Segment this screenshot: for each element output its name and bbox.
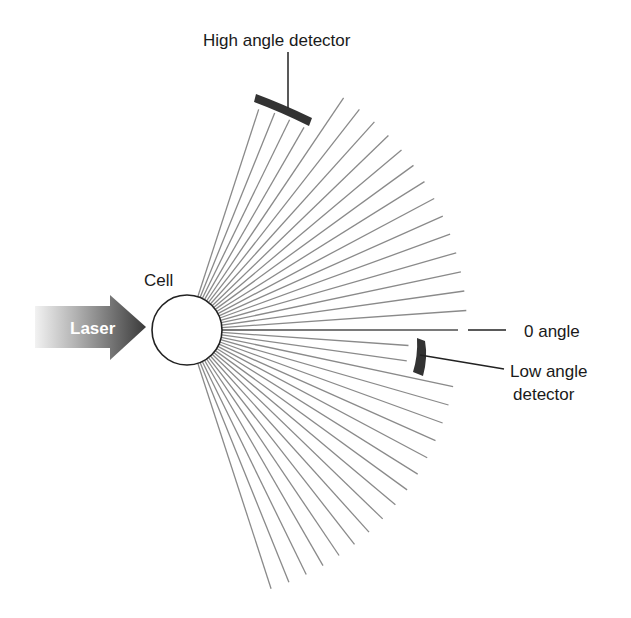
scatter-ray [209,109,360,302]
scattered-light-rays [198,98,467,589]
low-angle-detector-label-line1: Low angle [510,362,588,381]
cell-label: Cell [144,271,173,290]
zero-angle-label: 0 angle [524,322,580,341]
scatter-ray [200,113,275,298]
scatter-ray [205,360,324,565]
high-angle-detector: High angle detector [203,31,351,126]
scatter-ray [218,346,427,457]
scatter-ray [215,351,407,490]
low-angle-detector: Low angle detector [413,338,588,404]
scatter-ray [214,150,402,308]
scatter-ray [214,353,396,505]
scatter-ray [209,358,355,545]
scatter-ray [200,363,289,583]
scatter-ray [210,122,374,304]
scatter-ray [220,342,443,423]
laser-arrow: Laser [35,295,146,360]
scatter-ray [218,199,434,314]
light-scatter-diagram: Laser Cell High angle detector 0 angle L… [0,0,631,618]
scatter-ray [220,234,450,318]
scatter-ray [222,311,466,328]
cell-circle [152,295,222,365]
scatter-ray [210,356,369,532]
zero-angle-marker: 0 angle [468,322,580,341]
high-angle-detector-label: High angle detector [203,31,351,50]
low-angle-detector-label-line2: detector [513,385,575,404]
low-angle-detector-leader [420,355,504,369]
scatter-ray [202,362,306,575]
scatter-ray [222,291,465,325]
laser-label: Laser [70,319,116,338]
scatter-ray [198,363,271,588]
